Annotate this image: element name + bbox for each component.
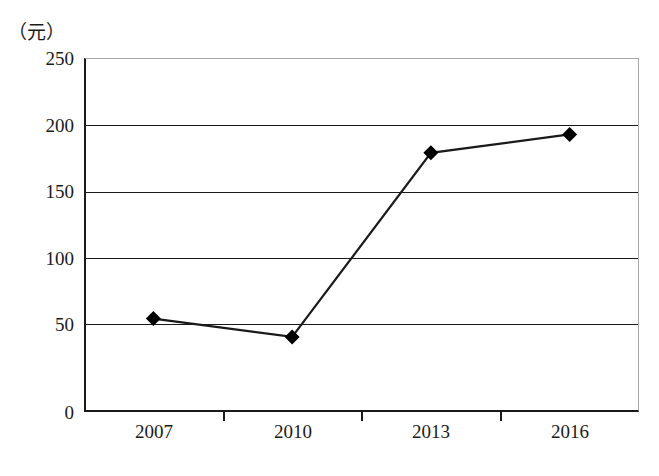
line-chart: （元） 250 200 150 100 50 0 2007 2010 2013 … xyxy=(0,0,659,476)
y-axis-tick-200: 200 xyxy=(14,116,74,135)
y-axis-unit-label: （元） xyxy=(8,22,65,44)
y-axis-tick-250: 250 xyxy=(14,49,74,68)
plot-area xyxy=(84,58,639,412)
gridline-200 xyxy=(86,125,638,126)
x-axis-tick-3 xyxy=(500,412,502,421)
gridline-150 xyxy=(86,192,638,193)
x-axis-label-2016: 2016 xyxy=(510,421,630,443)
gridline-50 xyxy=(86,324,638,325)
x-axis-tick-1 xyxy=(223,412,225,421)
x-axis-tick-2 xyxy=(361,412,363,421)
y-axis-tick-100: 100 xyxy=(14,249,74,268)
x-axis-label-2013: 2013 xyxy=(371,421,491,443)
gridline-100 xyxy=(86,258,638,259)
y-axis-tick-150: 150 xyxy=(14,182,74,201)
y-axis-tick-0: 0 xyxy=(14,403,74,422)
x-axis-label-2010: 2010 xyxy=(233,421,353,443)
x-axis-label-2007: 2007 xyxy=(94,421,214,443)
y-axis-tick-50: 50 xyxy=(14,315,74,334)
